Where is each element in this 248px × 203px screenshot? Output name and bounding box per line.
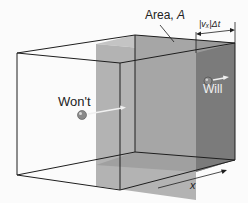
- x-axis-label: x: [190, 180, 196, 191]
- area-label: Area, A: [145, 9, 185, 21]
- slab-back-region: [135, 35, 196, 160]
- slab-dark-strip: [196, 40, 235, 172]
- particle-wont-label: Won't: [58, 95, 91, 108]
- box-drawing: [0, 0, 248, 203]
- particle-will-label: Will: [203, 83, 222, 95]
- gas-particle-box-diagram: Area, A |vₓ|Δt Won't Will x: [0, 0, 248, 203]
- displacement-label: |vₓ|Δt: [199, 20, 220, 29]
